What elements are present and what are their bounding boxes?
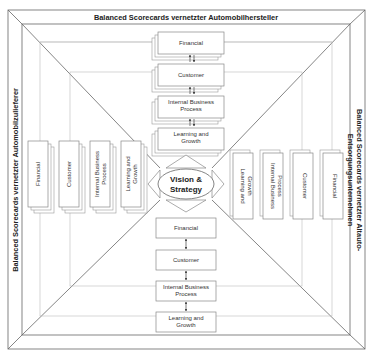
- bottom-internal-box: Internal Business Process: [156, 281, 216, 301]
- top-learning-box: Learning and Growth: [152, 128, 224, 156]
- vision-strategy-center: Vision & Strategy: [148, 155, 224, 212]
- top-scorecard: Financial Customer Internal Business Pro…: [152, 32, 224, 156]
- top-internal-box: Internal Business Process: [152, 96, 224, 124]
- svg-text:Process: Process: [180, 106, 202, 112]
- svg-text:Growth: Growth: [247, 176, 253, 195]
- svg-text:Customer: Customer: [178, 72, 204, 78]
- svg-text:Process: Process: [101, 163, 107, 185]
- svg-text:Growth: Growth: [181, 138, 200, 144]
- bottom-financial-box: Financial: [156, 218, 216, 238]
- svg-text:Internal Business: Internal Business: [163, 284, 209, 290]
- svg-text:Learning and: Learning and: [173, 131, 208, 137]
- bottom-learning-box: Learning and Growth: [156, 312, 216, 332]
- svg-text:Customer: Customer: [66, 161, 72, 187]
- svg-text:Financial: Financial: [332, 174, 338, 198]
- svg-text:Strategy: Strategy: [170, 185, 203, 194]
- svg-text:Growth: Growth: [132, 164, 138, 183]
- svg-text:Learning and: Learning and: [240, 168, 246, 203]
- svg-text:Customer: Customer: [173, 257, 199, 263]
- svg-text:Process: Process: [175, 291, 197, 297]
- svg-text:Customer: Customer: [302, 173, 308, 199]
- right-financial-box: Financial: [320, 150, 343, 219]
- top-financial-box: Financial: [152, 32, 224, 60]
- svg-text:Learning and: Learning and: [125, 156, 131, 191]
- left-scorecard: Financial Customer Internal Business Pro…: [28, 141, 147, 213]
- svg-text:Process: Process: [277, 175, 283, 197]
- balanced-scorecard-diagram: Balanced Scorecards vernetzter Automobil…: [0, 0, 373, 357]
- svg-text:Financial: Financial: [174, 225, 198, 231]
- left-learning-box: Learning and Growth: [121, 141, 147, 213]
- svg-text:Internal Business: Internal Business: [168, 99, 214, 105]
- top-customer-box: Customer: [152, 64, 224, 92]
- svg-text:Learning and: Learning and: [168, 315, 203, 321]
- title-top: Balanced Scorecards vernetzter Automobil…: [94, 13, 278, 22]
- left-customer-box: Customer: [59, 141, 85, 213]
- left-financial-box: Financial: [28, 141, 54, 213]
- right-scorecard: Learning and Growth Internal Business Pr…: [230, 150, 343, 219]
- title-right-2: Entsorgungsunternehmen: [346, 134, 355, 227]
- vision-ellipse: [158, 169, 214, 199]
- svg-text:Vision &: Vision &: [170, 175, 202, 184]
- right-customer-box: Customer: [290, 150, 313, 219]
- bottom-customer-box: Customer: [156, 250, 216, 270]
- svg-text:Financial: Financial: [179, 40, 203, 46]
- svg-text:Internal Business: Internal Business: [94, 151, 100, 197]
- svg-text:Internal Business: Internal Business: [270, 163, 276, 209]
- svg-text:Growth: Growth: [176, 322, 195, 328]
- left-internal-box: Internal Business Process: [90, 141, 116, 213]
- title-left: Balanced Scorecards vernetzter Automobil…: [11, 88, 20, 272]
- right-learning-box: Learning and Growth: [230, 150, 253, 219]
- svg-text:Financial: Financial: [35, 162, 41, 186]
- bottom-scorecard: Financial Customer Internal Business Pro…: [156, 218, 216, 332]
- title-right-1: Balanced Scorecards vernetzter Altauto-: [355, 109, 364, 252]
- right-internal-box: Internal Business Process: [260, 150, 283, 219]
